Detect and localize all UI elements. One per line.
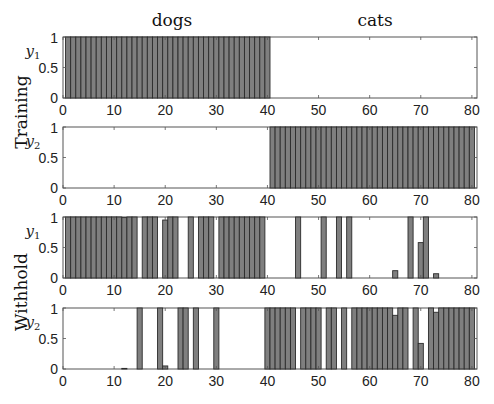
bar — [393, 271, 398, 278]
y-tick-label: 0 — [50, 361, 58, 377]
x-tick-label: 70 — [413, 282, 429, 298]
bar — [204, 217, 209, 278]
bar — [163, 37, 168, 98]
y-tick-label: 1 — [50, 210, 58, 226]
column-title-dogs: dogs — [152, 10, 193, 30]
bar — [142, 37, 147, 98]
x-tick-label: 30 — [209, 192, 225, 208]
x-tick-label: 60 — [362, 373, 378, 389]
y-axis-label: y2 — [25, 313, 41, 332]
bar — [290, 308, 295, 369]
bar — [168, 217, 173, 278]
x-tick-label: 0 — [59, 102, 67, 118]
bar — [275, 308, 280, 369]
bar — [449, 308, 454, 369]
bar — [260, 37, 265, 98]
bar — [229, 217, 234, 278]
bar — [183, 308, 188, 369]
bar — [357, 127, 362, 188]
bar — [449, 127, 454, 188]
bar — [71, 37, 76, 98]
y-axis-label: y2 — [25, 132, 41, 151]
bar — [193, 37, 198, 98]
bar — [362, 127, 367, 188]
bar — [152, 217, 157, 278]
bar — [296, 127, 301, 188]
bar — [209, 37, 214, 98]
bar — [388, 308, 393, 369]
x-tick-label: 20 — [157, 102, 173, 118]
bar — [270, 308, 275, 369]
x-tick-label: 80 — [464, 192, 480, 208]
bar — [250, 37, 255, 98]
y-tick-label: 0.5 — [39, 150, 59, 166]
x-tick-label: 60 — [362, 102, 378, 118]
x-tick-label: 50 — [311, 192, 327, 208]
bar — [173, 37, 178, 98]
bar — [469, 127, 474, 188]
panel-withhold-y2: 0102030405060708000.51y2 — [25, 301, 480, 389]
bar — [331, 127, 336, 188]
bar — [193, 308, 198, 369]
x-tick-label: 0 — [59, 282, 67, 298]
bar — [66, 217, 71, 278]
y-tick-label: 0 — [50, 90, 58, 106]
bar — [285, 308, 290, 369]
panel-training-y2: 0102030405060708000.51y2 — [25, 120, 480, 208]
bar — [204, 37, 209, 98]
bar — [106, 217, 111, 278]
panel-withhold-y1: 0102030405060708000.51y1 — [25, 210, 480, 298]
x-tick-label: 80 — [464, 373, 480, 389]
bar — [86, 37, 91, 98]
bar — [326, 127, 331, 188]
bar — [265, 308, 270, 369]
y-tick-label: 0.5 — [39, 60, 59, 76]
bar — [147, 217, 152, 278]
bar — [459, 308, 464, 369]
bar — [403, 308, 408, 369]
bar — [106, 37, 111, 98]
bar — [76, 217, 81, 278]
bar — [188, 37, 193, 98]
bar — [439, 308, 444, 369]
bar — [127, 37, 132, 98]
bar — [239, 37, 244, 98]
bar — [444, 127, 449, 188]
bar — [66, 37, 71, 98]
panel-training-y1: 0102030405060708000.51y1 — [25, 30, 480, 118]
bar — [347, 217, 352, 278]
bar — [316, 127, 321, 188]
bar — [188, 217, 193, 278]
bar — [244, 37, 249, 98]
bar — [229, 37, 234, 98]
column-title-cats: cats — [357, 10, 392, 30]
bar — [342, 308, 347, 369]
bar — [423, 217, 428, 278]
bar — [255, 37, 260, 98]
bar — [316, 308, 321, 369]
bar — [214, 308, 219, 369]
bar — [418, 243, 423, 278]
y-axis-label-subscript: 2 — [34, 140, 40, 151]
bar — [408, 127, 413, 188]
x-tick-label: 50 — [311, 282, 327, 298]
bar — [434, 127, 439, 188]
x-tick-label: 0 — [59, 373, 67, 389]
bar — [311, 127, 316, 188]
x-tick-label: 50 — [311, 373, 327, 389]
bar — [224, 217, 229, 278]
bar — [428, 308, 433, 369]
x-tick-label: 40 — [260, 282, 276, 298]
bar — [260, 217, 265, 278]
bar — [454, 308, 459, 369]
bar — [168, 37, 173, 98]
bar — [183, 37, 188, 98]
bar — [454, 127, 459, 188]
bar — [270, 127, 275, 188]
bar — [357, 308, 362, 369]
bar — [163, 220, 168, 278]
y-tick-label: 1 — [50, 301, 58, 317]
bar — [209, 217, 214, 278]
x-tick-label: 40 — [260, 192, 276, 208]
bar — [301, 127, 306, 188]
